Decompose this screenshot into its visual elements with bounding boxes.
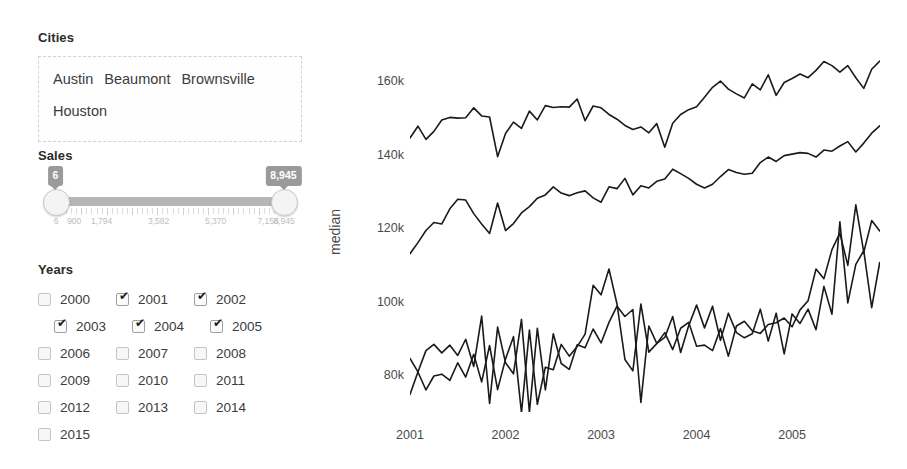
slider-selected-range bbox=[56, 197, 284, 206]
city-item[interactable]: Houston bbox=[53, 98, 107, 124]
year-label: 2013 bbox=[138, 400, 168, 415]
line-series bbox=[410, 222, 880, 412]
line-series bbox=[410, 126, 880, 254]
x-tick-label: 2002 bbox=[492, 428, 520, 442]
slider-min-value-tooltip: 6 bbox=[48, 166, 64, 186]
checked-box-icon[interactable] bbox=[210, 320, 223, 333]
year-label: 2008 bbox=[216, 346, 246, 361]
year-checkbox-2013[interactable]: 2013 bbox=[116, 400, 194, 415]
year-checkbox-2001[interactable]: 2001 bbox=[116, 292, 194, 307]
year-label: 2007 bbox=[138, 346, 168, 361]
years-row: 200020012002 bbox=[38, 286, 288, 313]
year-label: 2012 bbox=[60, 400, 90, 415]
unchecked-box-icon[interactable] bbox=[38, 401, 51, 414]
year-checkbox-2002[interactable]: 2002 bbox=[194, 292, 272, 307]
slider-scale-label: 6 bbox=[54, 216, 59, 226]
filter-controls-panel: Cities AustinBeaumontBrownsvilleHouston … bbox=[0, 0, 330, 469]
cities-multiselect[interactable]: AustinBeaumontBrownsvilleHouston bbox=[38, 56, 302, 142]
slider-scale-label: 3,582 bbox=[148, 216, 169, 226]
city-item[interactable]: Brownsville bbox=[181, 66, 254, 92]
years-row: 200620072008 bbox=[38, 340, 288, 367]
chart-plot-area bbox=[410, 52, 880, 412]
year-label: 2005 bbox=[232, 319, 262, 334]
years-checkbox-group: 2000200120022003200420052006200720082009… bbox=[38, 286, 288, 448]
line-series bbox=[410, 205, 880, 412]
year-label: 2010 bbox=[138, 373, 168, 388]
year-label: 2011 bbox=[216, 373, 245, 388]
year-label: 2014 bbox=[216, 400, 246, 415]
line-series bbox=[410, 61, 880, 157]
year-label: 2009 bbox=[60, 373, 90, 388]
year-checkbox-2009[interactable]: 2009 bbox=[38, 373, 116, 388]
cities-section-label: Cities bbox=[38, 30, 74, 45]
unchecked-box-icon[interactable] bbox=[116, 347, 129, 360]
year-checkbox-2012[interactable]: 2012 bbox=[38, 400, 116, 415]
unchecked-box-icon[interactable] bbox=[194, 347, 207, 360]
unchecked-box-icon[interactable] bbox=[38, 374, 51, 387]
year-label: 2003 bbox=[76, 319, 106, 334]
y-tick-label: 80k bbox=[384, 368, 404, 382]
y-tick-label: 160k bbox=[377, 74, 404, 88]
slider-handle-min[interactable] bbox=[43, 189, 70, 216]
years-row: 200920102011 bbox=[38, 367, 288, 394]
slider-handle-max[interactable] bbox=[271, 189, 298, 216]
slider-scale-label: 1,794 bbox=[91, 216, 112, 226]
year-label: 2001 bbox=[138, 292, 168, 307]
sales-range-slider[interactable]: 6 8,945 69001,7943,5825,3707,1588,945 bbox=[38, 170, 302, 248]
year-checkbox-2004[interactable]: 2004 bbox=[132, 319, 210, 334]
checked-box-icon[interactable] bbox=[132, 320, 145, 333]
unchecked-box-icon[interactable] bbox=[116, 374, 129, 387]
year-checkbox-2000[interactable]: 2000 bbox=[38, 292, 116, 307]
year-checkbox-2006[interactable]: 2006 bbox=[38, 346, 116, 361]
slider-scale-label: 900 bbox=[67, 216, 81, 226]
y-tick-label: 100k bbox=[377, 295, 404, 309]
city-item[interactable]: Austin bbox=[53, 66, 93, 92]
y-tick-label: 120k bbox=[377, 221, 404, 235]
x-tick-label: 2004 bbox=[683, 428, 711, 442]
unchecked-box-icon[interactable] bbox=[116, 401, 129, 414]
year-label: 2002 bbox=[216, 292, 246, 307]
slider-scale-label: 8,945 bbox=[273, 216, 294, 226]
sales-section-label: Sales bbox=[38, 148, 72, 163]
year-label: 2006 bbox=[60, 346, 90, 361]
y-axis-title: median bbox=[327, 209, 343, 255]
unchecked-box-icon[interactable] bbox=[194, 374, 207, 387]
year-label: 2004 bbox=[154, 319, 184, 334]
years-row: 200320042005 bbox=[38, 313, 288, 340]
years-row: 201220132014 bbox=[38, 394, 288, 421]
unchecked-box-icon[interactable] bbox=[38, 293, 51, 306]
x-tick-label: 2003 bbox=[587, 428, 615, 442]
checked-box-icon[interactable] bbox=[54, 320, 67, 333]
year-checkbox-2005[interactable]: 2005 bbox=[210, 319, 288, 334]
year-checkbox-2007[interactable]: 2007 bbox=[116, 346, 194, 361]
y-tick-label: 140k bbox=[377, 148, 404, 162]
unchecked-box-icon[interactable] bbox=[38, 347, 51, 360]
year-checkbox-2003[interactable]: 2003 bbox=[54, 319, 132, 334]
y-axis-tick-labels: 80k100k120k140k160k bbox=[352, 0, 404, 469]
year-checkbox-2010[interactable]: 2010 bbox=[116, 373, 194, 388]
cities-selected-list: AustinBeaumontBrownsvilleHouston bbox=[53, 66, 289, 124]
year-checkbox-2011[interactable]: 2011 bbox=[194, 373, 272, 388]
slider-tick-marks bbox=[56, 208, 284, 215]
year-checkbox-2014[interactable]: 2014 bbox=[194, 400, 272, 415]
x-tick-label: 2005 bbox=[778, 428, 806, 442]
year-label: 2000 bbox=[60, 292, 90, 307]
slider-max-value-tooltip: 8,945 bbox=[265, 166, 301, 186]
checked-box-icon[interactable] bbox=[194, 293, 207, 306]
x-axis-tick-labels: 20012002200320042005 bbox=[0, 428, 907, 448]
slider-scale-label: 5,370 bbox=[205, 216, 226, 226]
x-tick-label: 2001 bbox=[396, 428, 424, 442]
city-item[interactable]: Beaumont bbox=[104, 66, 170, 92]
checked-box-icon[interactable] bbox=[116, 293, 129, 306]
slider-scale-labels: 69001,7943,5825,3707,1588,945 bbox=[38, 216, 302, 232]
unchecked-box-icon[interactable] bbox=[194, 401, 207, 414]
year-checkbox-2008[interactable]: 2008 bbox=[194, 346, 272, 361]
years-section-label: Years bbox=[38, 262, 73, 277]
